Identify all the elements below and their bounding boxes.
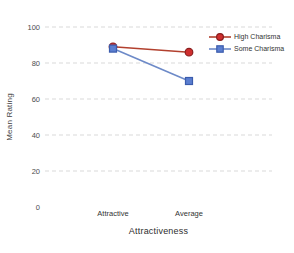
svg-text:100: 100 xyxy=(27,23,40,32)
legend-label: High Charisma xyxy=(234,33,280,40)
line-circle-marker-icon xyxy=(209,32,231,42)
legend-label: Some Charisma xyxy=(234,45,284,52)
line-square-marker-icon xyxy=(209,44,231,54)
svg-text:80: 80 xyxy=(32,59,40,68)
x-axis-title: Attractiveness xyxy=(45,226,272,236)
svg-text:20: 20 xyxy=(32,167,40,176)
legend-item-high-charisma: High Charisma xyxy=(209,31,284,42)
svg-text:40: 40 xyxy=(32,131,40,140)
svg-text:Attractive: Attractive xyxy=(97,209,128,218)
y-axis-title: Mean Rating xyxy=(5,93,14,141)
svg-text:60: 60 xyxy=(32,95,40,104)
svg-text:Average: Average xyxy=(175,209,203,218)
legend-item-some-charisma: Some Charisma xyxy=(209,43,284,54)
svg-text:0: 0 xyxy=(36,203,40,212)
chart-container: 020406080100AttractiveAverage Mean Ratin… xyxy=(0,0,294,253)
legend: High Charisma Some Charisma xyxy=(209,31,284,54)
